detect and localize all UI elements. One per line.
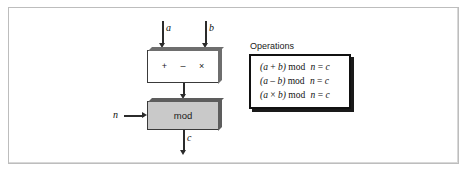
operation-row: (a – b) mod n = c <box>260 75 340 89</box>
arrow-a-line <box>162 21 164 44</box>
op-lhs-2: a <box>263 76 268 86</box>
arrow-c-head-icon <box>180 150 186 155</box>
figure-frame <box>8 7 459 164</box>
operations-panel: Operations (a + b) mod n = c (a – b) mod… <box>249 42 351 109</box>
operations-box: (a + b) mod n = c (a – b) mod n = c (a ×… <box>249 54 351 109</box>
figure-canvas: a b + – × n mod c Operations (a + b) <box>0 0 468 173</box>
op-equals-1: = <box>318 62 323 72</box>
op-mod-keyword-3: mod <box>288 90 305 100</box>
op-result-3: c <box>325 90 329 100</box>
mod-unit-block: mod <box>147 101 219 130</box>
op-close-paren-3: ) <box>283 90 286 100</box>
arithmetic-unit-operators: + – × <box>148 51 218 82</box>
signal-label-n: n <box>113 110 118 120</box>
op-operator-3: × <box>270 90 275 100</box>
op-close-paren-1: ) <box>283 62 286 72</box>
op-mod-keyword-2: mod <box>288 76 305 86</box>
signal-label-c: c <box>187 133 191 143</box>
signal-label-b: b <box>209 23 214 33</box>
op-equals-2: = <box>317 76 322 86</box>
op-operator-1: + <box>270 62 275 72</box>
op-close-paren-2: ) <box>282 76 285 86</box>
op-modulus-3: n <box>311 90 316 100</box>
operation-row: (a + b) mod n = c <box>260 61 340 75</box>
op-mod-keyword-1: mod <box>288 62 305 72</box>
mod-unit-label: mod <box>148 102 218 129</box>
op-lhs-1: a <box>263 62 268 72</box>
operation-row: (a × b) mod n = c <box>260 89 340 103</box>
signal-label-a: a <box>166 23 171 33</box>
op-result-2: c <box>325 76 329 86</box>
operator-minus: – <box>180 62 185 71</box>
arrow-b-line <box>205 21 207 44</box>
operator-times: × <box>199 62 204 71</box>
op-result-1: c <box>325 62 329 72</box>
arrow-n-line <box>124 115 144 117</box>
arithmetic-unit-block: + – × <box>147 50 219 83</box>
operations-title: Operations <box>249 42 351 51</box>
arithmetic-unit-right-edge <box>218 47 222 84</box>
arrow-c-line <box>183 130 185 152</box>
op-lhs-3: a <box>263 90 268 100</box>
op-modulus-1: n <box>311 62 316 72</box>
op-operator-2: – <box>270 76 275 86</box>
operator-plus: + <box>162 62 167 71</box>
op-modulus-2: n <box>310 76 315 86</box>
op-equals-3: = <box>318 90 323 100</box>
mod-unit-right-edge <box>218 98 222 131</box>
